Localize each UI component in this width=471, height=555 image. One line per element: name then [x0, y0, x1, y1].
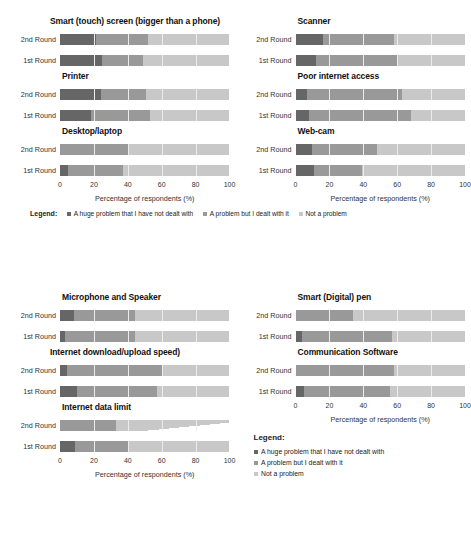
bar-row: 1st Round — [0, 381, 236, 402]
row-label: 2nd Round — [236, 90, 296, 99]
stacked-bar[interactable] — [296, 331, 466, 342]
segment-not-a-problem — [146, 89, 229, 100]
segment-not-a-problem — [128, 441, 230, 452]
legend-swatch-icon — [254, 450, 258, 454]
segment-not-a-problem — [157, 386, 230, 397]
x-tick: 60 — [158, 457, 166, 464]
segment-not-a-problem — [402, 89, 465, 100]
panel-communication-software: Communication Software 2nd Round — [236, 347, 471, 402]
segment-problem-dealt — [91, 110, 150, 121]
x-axis-top-right: 0 20 40 60 80 100 — [296, 181, 466, 193]
stacked-bar[interactable] — [60, 89, 230, 100]
x-tick: 0 — [58, 181, 62, 188]
legend-item-not-a-problem[interactable]: Not a problem — [299, 210, 347, 217]
row-label: 1st Round — [236, 56, 296, 65]
stacked-bar[interactable] — [60, 386, 230, 397]
stacked-bar[interactable] — [296, 165, 466, 176]
x-axis-bottom-right: 0 20 40 60 80 100 — [296, 402, 466, 414]
panel-internet-data-limit: Internet data limit 2nd Round — [0, 402, 236, 457]
row-label: 2nd Round — [0, 311, 60, 320]
legend-swatch-icon — [254, 472, 258, 476]
panel-group-top: Smart (touch) screen (bigger than a phon… — [0, 16, 471, 217]
panel-printer: Printer 2nd Round — [0, 71, 236, 126]
segment-problem-dealt — [77, 386, 157, 397]
bar-row: 1st Round — [236, 160, 471, 181]
row-label: 2nd Round — [236, 366, 296, 375]
legend-item-text: Not a problem — [261, 468, 304, 479]
segment-not-a-problem — [394, 365, 465, 376]
segment-problem-dealt — [102, 55, 143, 66]
row-label: 2nd Round — [0, 366, 60, 375]
stacked-bar[interactable] — [296, 55, 466, 66]
segment-problem-dealt — [74, 310, 135, 321]
legend-swatch-icon — [254, 461, 258, 465]
stacked-bar[interactable] — [296, 386, 466, 397]
segment-not-a-problem — [163, 365, 229, 376]
bar-row: 1st Round — [0, 160, 236, 181]
stacked-bar[interactable] — [60, 165, 230, 176]
legend-item-not-a-problem[interactable]: Not a problem — [254, 468, 471, 479]
bar-row: 2nd Round — [0, 29, 236, 50]
legend-item-huge-problem[interactable]: A huge problem that I have not dealt wit… — [254, 446, 471, 457]
legend-top: Legend: A huge problem that I have not d… — [30, 210, 471, 217]
segment-not-a-problem — [129, 144, 229, 155]
segment-problem-dealt — [60, 420, 116, 431]
x-tick: 0 — [58, 457, 62, 464]
segment-not-a-problem — [148, 34, 229, 45]
panel-title: Printer — [62, 71, 236, 82]
bar-row: 2nd Round — [0, 305, 236, 326]
segment-problem-dealt — [96, 34, 149, 45]
bar-row: 1st Round — [0, 50, 236, 71]
x-tick: 100 — [459, 402, 471, 409]
stacked-bar[interactable] — [60, 310, 230, 321]
segment-huge-problem — [60, 441, 75, 452]
x-axis-bottom-left: 0 20 40 60 80 100 — [60, 457, 230, 469]
segment-problem-dealt — [60, 144, 129, 155]
segment-huge-problem — [296, 34, 323, 45]
bar-row: 1st Round — [236, 326, 471, 347]
legend-item-problem-dealt[interactable]: A problem but I dealt with it — [203, 210, 289, 217]
panel-title: Internet download/upload speed) — [50, 347, 236, 358]
bar-row: 2nd Round — [0, 84, 236, 105]
panel-poor-internet-access: Poor internet access 2nd Round — [236, 71, 471, 126]
row-label: 1st Round — [0, 387, 60, 396]
panel-internet-download-upload-speed: Internet download/upload speed) 2nd Roun… — [0, 347, 236, 402]
legend-item-problem-dealt[interactable]: A problem but I dealt with it — [254, 457, 471, 468]
stacked-bar[interactable] — [296, 310, 466, 321]
segment-huge-problem — [60, 310, 74, 321]
segment-huge-problem — [60, 365, 67, 376]
x-tick: 60 — [393, 402, 401, 409]
segment-huge-problem — [60, 55, 102, 66]
stacked-bar[interactable] — [60, 420, 230, 431]
stacked-bar[interactable] — [60, 110, 230, 121]
stacked-bar[interactable] — [296, 110, 466, 121]
stacked-bar[interactable] — [60, 34, 230, 45]
panel-title: Desktop/laptop — [62, 126, 236, 137]
stacked-bar[interactable] — [60, 55, 230, 66]
panel-column-right-top: Scanner 2nd Round — [236, 16, 471, 203]
x-tick: 40 — [124, 457, 132, 464]
panel-title: Internet data limit — [62, 402, 236, 413]
stacked-bar[interactable] — [296, 34, 466, 45]
stacked-bar[interactable] — [296, 144, 466, 155]
segment-problem-dealt — [312, 144, 376, 155]
x-axis-label: Percentage of respondents (%) — [296, 415, 466, 424]
x-tick: 40 — [359, 402, 367, 409]
stacked-bar[interactable] — [60, 331, 230, 342]
stacked-bar[interactable] — [60, 441, 230, 452]
row-label: 1st Round — [0, 166, 60, 175]
stacked-bar[interactable] — [60, 365, 230, 376]
stacked-bar[interactable] — [296, 365, 466, 376]
segment-problem-dealt — [75, 441, 128, 452]
panel-title: Scanner — [298, 16, 471, 27]
segment-not-a-problem — [394, 34, 465, 45]
stacked-bar[interactable] — [60, 144, 230, 155]
panel-microphone-and-speaker: Microphone and Speaker 2nd Round — [0, 292, 236, 347]
legend-item-huge-problem[interactable]: A huge problem that I have not dealt wit… — [67, 210, 193, 217]
segment-huge-problem — [60, 110, 91, 121]
stacked-bar[interactable] — [296, 89, 466, 100]
panel-web-cam: Web-cam 2nd Round — [236, 126, 471, 181]
legend-item-text: A huge problem that I have not dealt wit… — [74, 210, 194, 217]
panel-group-bottom: Microphone and Speaker 2nd Round — [0, 292, 471, 479]
bar-row: 2nd Round — [236, 139, 471, 160]
